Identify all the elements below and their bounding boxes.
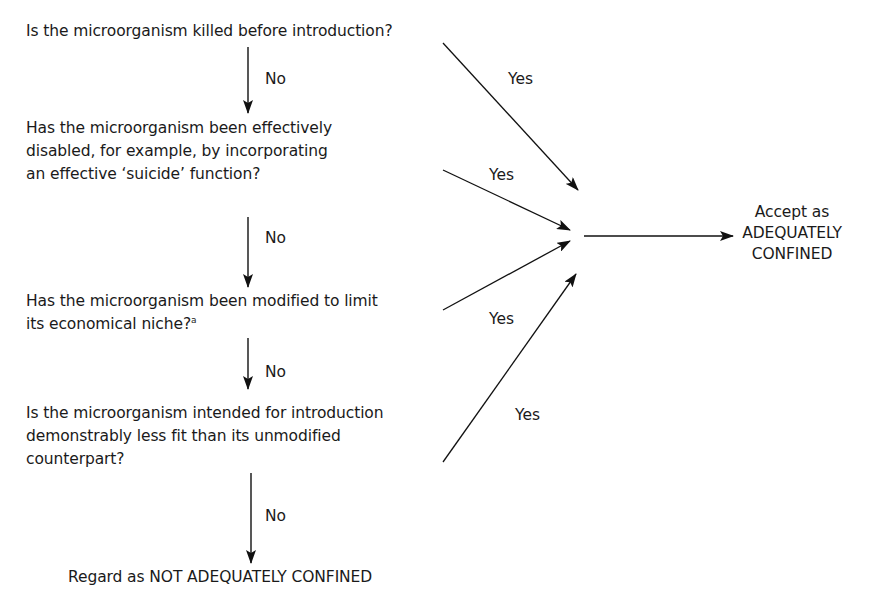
accept-line-3: CONFINED <box>738 244 846 265</box>
yes-arrow-3 <box>443 241 570 310</box>
question-3-line-2: its economical niche? <box>26 315 191 333</box>
question-3-line-1: Has the microorganism been modified to l… <box>26 290 378 313</box>
accept-outcome: Accept as ADEQUATELY CONFINED <box>738 202 846 265</box>
accept-line-2: ADEQUATELY <box>738 223 846 244</box>
no-label-3: No <box>265 362 286 382</box>
question-4: Is the microorganism intended for introd… <box>26 402 383 471</box>
footnote-marker: a <box>191 315 196 325</box>
question-2: Has the microorganism been effectively d… <box>26 117 332 186</box>
yes-label-1: Yes <box>508 69 533 89</box>
reject-outcome: Regard as NOT ADEQUATELY CONFINED <box>68 566 372 589</box>
question-1-line-1: Is the microorganism killed before intro… <box>26 22 393 40</box>
yes-arrow-4 <box>443 274 576 462</box>
question-3: Has the microorganism been modified to l… <box>26 290 378 336</box>
question-4-line-3: counterpart? <box>26 448 383 471</box>
question-2-line-3: an effective ‘suicide’ function? <box>26 163 332 186</box>
question-4-line-2: demonstrably less fit than its unmodifie… <box>26 425 383 448</box>
question-2-line-1: Has the microorganism been effectively <box>26 117 332 140</box>
question-2-line-2: disabled, for example, by incorporating <box>26 140 332 163</box>
no-label-4: No <box>265 506 286 526</box>
no-label-1: No <box>265 69 286 89</box>
question-4-line-1: Is the microorganism intended for introd… <box>26 402 383 425</box>
no-label-2: No <box>265 228 286 248</box>
yes-label-4: Yes <box>515 405 540 425</box>
yes-label-2: Yes <box>489 165 514 185</box>
accept-line-1: Accept as <box>738 202 846 223</box>
yes-label-3: Yes <box>489 309 514 329</box>
question-1: Is the microorganism killed before intro… <box>26 20 393 43</box>
